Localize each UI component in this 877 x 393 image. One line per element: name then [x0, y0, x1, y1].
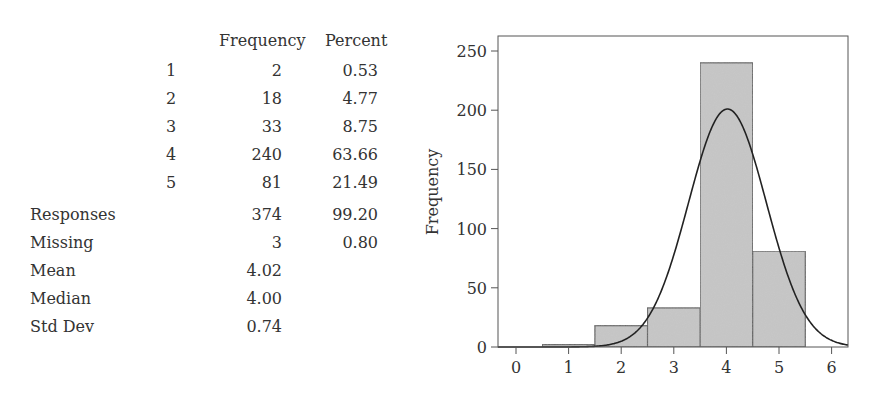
summary-missing-percent: 0.80 — [300, 233, 378, 253]
x-tick-label: 0 — [511, 358, 521, 377]
summary-label-std-dev: Std Dev — [30, 317, 94, 337]
y-axis-label: Frequency — [423, 149, 442, 236]
y-axis: 050100150200250 — [456, 42, 498, 357]
y-tick-label: 250 — [456, 42, 487, 61]
percent-value: 8.75 — [300, 117, 378, 137]
level-label: 5 — [166, 173, 186, 193]
x-tick-label: 6 — [827, 358, 837, 377]
summary-label-median: Median — [30, 289, 91, 309]
summary-label-mean: Mean — [30, 261, 76, 281]
summary-label-missing: Missing — [30, 233, 94, 253]
frequency-value: 33 — [200, 117, 282, 137]
x-axis: 0123456 — [511, 347, 837, 377]
percent-value: 0.53 — [300, 61, 378, 81]
frequency-value: 81 — [200, 173, 282, 193]
level-label: 1 — [166, 61, 186, 81]
summary-mean-value: 4.02 — [200, 261, 282, 281]
summary-responses-percent: 99.20 — [300, 205, 378, 225]
x-tick-label: 1 — [564, 358, 574, 377]
histogram-chart: 050100150200250 0123456 Frequency — [410, 0, 877, 393]
summary-responses-frequency: 374 — [200, 205, 282, 225]
percent-value: 4.77 — [300, 89, 378, 109]
summary-label-responses: Responses — [30, 205, 116, 225]
histogram-bars — [542, 63, 805, 347]
level-label: 4 — [166, 145, 186, 165]
histogram-bar — [700, 63, 753, 347]
y-tick-label: 100 — [456, 220, 487, 239]
frequency-value: 18 — [200, 89, 282, 109]
histogram-bar — [648, 308, 701, 347]
level-label: 2 — [166, 89, 186, 109]
header-frequency: Frequency — [219, 31, 306, 51]
frequency-value: 240 — [200, 145, 282, 165]
summary-std-dev-value: 0.74 — [200, 317, 282, 337]
summary-median-value: 4.00 — [200, 289, 282, 309]
y-tick-label: 150 — [456, 160, 487, 179]
summary-missing-frequency: 3 — [200, 233, 282, 253]
x-tick-label: 3 — [669, 358, 679, 377]
header-percent: Percent — [325, 31, 387, 51]
x-tick-label: 4 — [721, 358, 731, 377]
y-tick-label: 0 — [477, 338, 487, 357]
percent-value: 21.49 — [300, 173, 378, 193]
x-tick-label: 2 — [616, 358, 626, 377]
x-tick-label: 5 — [774, 358, 784, 377]
frequency-table: Frequency Percent 1 2 0.53 2 18 4.77 3 3… — [0, 0, 410, 393]
percent-value: 63.66 — [300, 145, 378, 165]
y-tick-label: 200 — [456, 101, 487, 120]
level-label: 3 — [166, 117, 186, 137]
frequency-value: 2 — [200, 61, 282, 81]
y-tick-label: 50 — [467, 279, 487, 298]
histogram-svg: 050100150200250 0123456 Frequency — [410, 0, 877, 393]
